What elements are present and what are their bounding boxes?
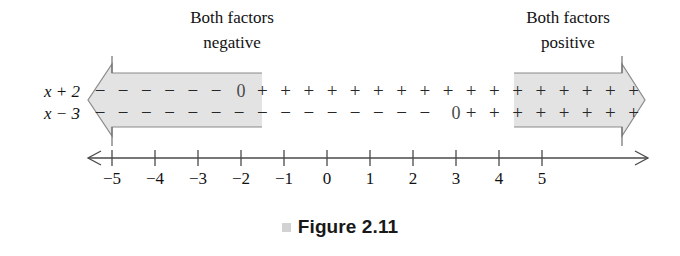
- plus-sign: +: [582, 102, 593, 123]
- minus-sign: −: [211, 102, 222, 123]
- minus-sign: −: [211, 80, 222, 101]
- annotation-left: Both factors negative: [190, 8, 274, 52]
- plus-sign: +: [512, 102, 523, 123]
- row-label-x-minus-3: x − 3: [43, 104, 80, 123]
- plus-sign: +: [280, 80, 291, 101]
- minus-sign: −: [373, 102, 384, 123]
- plus-sign: +: [466, 102, 477, 123]
- plus-sign: +: [628, 80, 639, 101]
- plus-sign: +: [559, 102, 570, 123]
- minus-sign: −: [234, 102, 245, 123]
- minus-sign: −: [350, 102, 361, 123]
- plus-sign: +: [466, 80, 477, 101]
- plus-sign: +: [489, 102, 500, 123]
- axis-tick-label: 2: [409, 169, 418, 188]
- annotation-left-line1: Both factors: [190, 8, 274, 27]
- plus-sign: +: [443, 80, 454, 101]
- minus-sign: −: [164, 102, 175, 123]
- minus-sign: −: [141, 80, 152, 101]
- minus-sign: −: [280, 102, 291, 123]
- shaded-region-positive: [514, 64, 645, 136]
- axis-tick-label: −1: [275, 169, 293, 188]
- minus-sign: −: [419, 102, 430, 123]
- minus-sign: −: [327, 102, 338, 123]
- plus-sign: +: [257, 80, 268, 101]
- plus-sign: +: [535, 80, 546, 101]
- annotation-right-line1: Both factors: [526, 8, 610, 27]
- plus-sign: +: [303, 80, 314, 101]
- axis-tick-labels: −5−4−3−2−1012345: [103, 169, 546, 188]
- plus-sign: +: [582, 80, 593, 101]
- plus-sign: +: [350, 80, 361, 101]
- zero-marker: 0: [237, 81, 246, 101]
- minus-sign: −: [118, 80, 129, 101]
- figure-2-11: Both factors negative Both factors posit…: [0, 0, 680, 256]
- plus-sign: +: [535, 102, 546, 123]
- plus-sign: +: [605, 80, 616, 101]
- minus-sign: −: [187, 102, 198, 123]
- plus-sign: +: [512, 80, 523, 101]
- axis-tick-label: −2: [232, 169, 250, 188]
- plus-sign: +: [373, 80, 384, 101]
- axis-tick-label: −5: [103, 169, 121, 188]
- minus-sign: −: [118, 102, 129, 123]
- square-marker-icon: [282, 223, 291, 232]
- axis-tick-label: 5: [538, 169, 547, 188]
- minus-sign: −: [187, 80, 198, 101]
- plus-sign: +: [559, 80, 570, 101]
- axis-tick-label: 3: [452, 169, 461, 188]
- plus-sign: +: [605, 102, 616, 123]
- minus-sign: −: [95, 80, 106, 101]
- plus-sign: +: [489, 80, 500, 101]
- row-label-x-plus-2: x + 2: [43, 82, 81, 101]
- annotation-right-line2: positive: [541, 33, 595, 52]
- axis-tick-label: 4: [495, 169, 504, 188]
- figure-caption-text: Figure 2.11: [298, 216, 398, 238]
- plus-sign: +: [327, 80, 338, 101]
- zero-marker: 0: [452, 103, 461, 123]
- minus-sign: −: [141, 102, 152, 123]
- axis-tick-label: −4: [146, 169, 165, 188]
- axis-tick-label: −3: [189, 169, 207, 188]
- annotation-right: Both factors positive: [526, 8, 610, 52]
- minus-sign: −: [303, 102, 314, 123]
- plus-sign: +: [419, 80, 430, 101]
- minus-sign: −: [95, 102, 106, 123]
- minus-sign: −: [396, 102, 407, 123]
- axis-tick-label: 0: [323, 169, 332, 188]
- minus-sign: −: [164, 80, 175, 101]
- plus-sign: +: [396, 80, 407, 101]
- figure-caption: Figure 2.11: [0, 216, 680, 238]
- minus-sign: −: [257, 102, 268, 123]
- plus-sign: +: [628, 102, 639, 123]
- annotation-left-line2: negative: [203, 33, 261, 52]
- number-line: −5−4−3−2−1012345: [88, 150, 648, 188]
- axis-tick-label: 1: [366, 169, 375, 188]
